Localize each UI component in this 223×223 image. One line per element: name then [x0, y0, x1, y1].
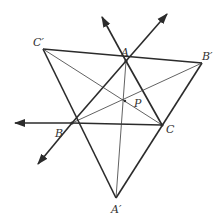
point-b: [70, 121, 73, 124]
point-p: [124, 100, 126, 102]
label-b-prime: B′: [201, 50, 213, 63]
point-a: [124, 59, 127, 62]
inner-triangle: [72, 61, 162, 125]
segment-a-b: [72, 61, 126, 123]
geometry-diagram: A B C A′ B′ C′ P: [0, 0, 223, 223]
segment-b-c: [72, 123, 162, 125]
segment-a-aprime: [116, 61, 126, 198]
label-c: C: [166, 123, 175, 136]
label-c-prime: C′: [33, 36, 44, 49]
diagram-canvas: A B C A′ B′ C′ P: [0, 0, 223, 223]
label-p: P: [133, 97, 142, 110]
point-c: [160, 123, 163, 126]
label-b: B: [54, 127, 63, 140]
vertex-dots: [70, 59, 163, 126]
label-a: A: [120, 46, 129, 59]
label-a-prime: A′: [110, 203, 122, 216]
segment-c-a: [126, 61, 162, 125]
ray-a-up-right-arrow: [126, 14, 167, 61]
